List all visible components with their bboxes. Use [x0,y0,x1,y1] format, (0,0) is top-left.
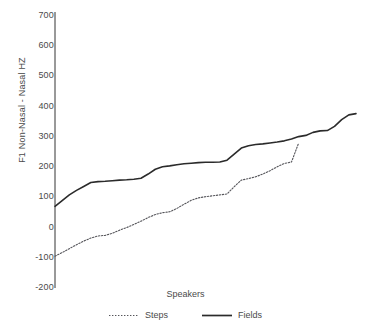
legend-label-fields: Fields [238,310,262,320]
legend-swatch-steps-icon [109,312,139,319]
chart-container: F1 Non-Nasal - Nasal HZ 700 600 500 400 … [0,0,371,334]
plot-area [0,0,371,334]
chart-legend: Steps Fields [0,310,371,320]
legend-label-steps: Steps [145,310,168,320]
series-line-steps [55,143,299,256]
legend-swatch-fields-icon [202,312,232,319]
legend-item-steps[interactable]: Steps [109,310,168,320]
series-line-fields [55,114,356,207]
legend-item-fields[interactable]: Fields [202,310,262,320]
x-axis-label: Speakers [0,289,371,299]
